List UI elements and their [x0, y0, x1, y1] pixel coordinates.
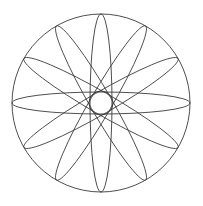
rosette-figure: Six-petal rosette geometric figure A cir… [0, 0, 203, 206]
canvas-background [0, 0, 203, 206]
